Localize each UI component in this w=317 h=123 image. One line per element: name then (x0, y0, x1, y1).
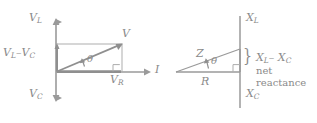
label-reactance: reactance (256, 78, 306, 88)
impedance-triangle-graphics (176, 16, 240, 108)
label-resistance-r: R (201, 76, 209, 87)
brace-icon: } (243, 46, 252, 65)
label-vl-minus-vc: VL–VC (3, 47, 35, 59)
phasor-vaxis-down-arrowhead (53, 95, 60, 102)
label-vr: VR (110, 74, 124, 86)
label-vl-axis: VL (29, 12, 42, 24)
phasor-diagram-graphics (53, 18, 151, 102)
label-net-reactance-formula: XL– XC (256, 52, 291, 64)
label-current-i: I (155, 64, 159, 75)
phasor-vaxis-up-arrowhead (53, 18, 60, 25)
impedance-right-angle-marker (233, 65, 240, 72)
phasor-haxis-arrowhead (144, 69, 151, 76)
label-resultant-v: V (122, 28, 130, 39)
label-theta-left: θ (87, 54, 93, 64)
label-vc-axis: VC (29, 88, 43, 100)
label-xl-axis: XL (246, 12, 259, 24)
label-impedance-z: Z (196, 48, 204, 59)
label-theta-right: θ (211, 56, 217, 66)
label-net: net (256, 66, 272, 76)
label-xc-axis: XC (246, 88, 260, 100)
figure-container: VL VL–VC VC V VR I θ XL XC Z R θ } XL– X… (0, 0, 317, 123)
